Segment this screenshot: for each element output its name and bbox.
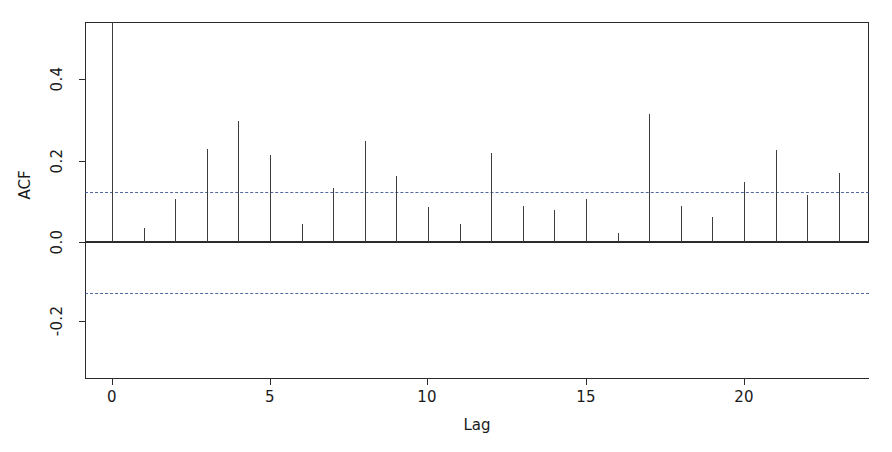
acf-stem-lag-11 xyxy=(460,224,461,242)
y-axis-line xyxy=(85,22,86,379)
y-tick-label-0.2: 0.2 xyxy=(48,149,66,174)
acf-stem-lag-8 xyxy=(365,141,366,242)
y-tick--0.2 xyxy=(79,321,85,322)
x-tick-label-5: 5 xyxy=(265,388,275,406)
acf-stem-lag-10 xyxy=(428,207,429,242)
acf-plot: 0.4 0.2 0.0 -0.2 0 5 10 15 20 Lag ACF xyxy=(0,0,892,452)
x-tick-15 xyxy=(586,379,587,385)
x-axis-line xyxy=(85,378,869,379)
y-tick-label--0.2: -0.2 xyxy=(48,306,66,336)
acf-stem-lag-12 xyxy=(491,153,492,242)
x-tick-20 xyxy=(744,379,745,385)
acf-stem-lag-19 xyxy=(712,217,713,242)
x-tick-label-20: 20 xyxy=(734,388,754,406)
acf-stem-lag-13 xyxy=(523,206,524,242)
acf-stem-lag-0 xyxy=(112,22,113,242)
plot-panel-border xyxy=(85,22,869,242)
x-tick-0 xyxy=(112,379,113,385)
acf-stem-lag-14 xyxy=(554,210,555,242)
y-tick-label-0.0: 0.0 xyxy=(48,230,66,255)
y-tick-0.2 xyxy=(79,161,85,162)
y-tick-label-0.4: 0.4 xyxy=(48,67,66,92)
acf-stem-lag-22 xyxy=(807,195,808,242)
x-tick-10 xyxy=(427,379,428,385)
acf-stem-lag-21 xyxy=(776,150,777,242)
acf-stem-lag-1 xyxy=(144,228,145,242)
zero-reference-line xyxy=(85,242,869,243)
acf-stem-lag-17 xyxy=(649,114,650,242)
acf-stem-lag-6 xyxy=(302,224,303,242)
acf-stem-lag-4 xyxy=(238,121,239,243)
y-tick-0.0 xyxy=(79,242,85,243)
acf-stem-lag-20 xyxy=(744,182,745,242)
acf-stem-lag-5 xyxy=(270,155,271,242)
y-tick-0.4 xyxy=(79,79,85,80)
y-axis-title: ACF xyxy=(16,170,34,199)
x-tick-label-15: 15 xyxy=(576,388,596,406)
x-tick-label-0: 0 xyxy=(107,388,117,406)
x-axis-title: Lag xyxy=(463,416,490,434)
confidence-upper-line xyxy=(85,192,869,193)
confidence-lower-line xyxy=(85,293,869,294)
acf-stem-lag-23 xyxy=(839,173,840,242)
acf-stem-lag-3 xyxy=(207,149,208,242)
acf-stem-lag-7 xyxy=(333,188,334,242)
acf-stem-lag-18 xyxy=(681,206,682,242)
acf-stem-lag-2 xyxy=(175,199,176,242)
x-tick-5 xyxy=(270,379,271,385)
acf-stem-lag-15 xyxy=(586,199,587,242)
acf-stem-lag-16 xyxy=(618,233,619,242)
x-tick-label-10: 10 xyxy=(417,388,437,406)
acf-stem-lag-9 xyxy=(396,176,397,242)
